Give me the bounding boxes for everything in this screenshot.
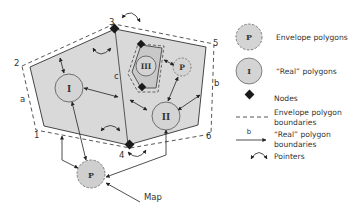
vertex-label-1: 1 bbox=[34, 130, 39, 140]
envelope-polygon-inner-label: P bbox=[179, 63, 185, 72]
envelope-polygon-map-label: P bbox=[88, 170, 94, 180]
legend-real-boundary-symbol: b bbox=[247, 128, 252, 136]
legend-real-boundary-label-line2: boundaries bbox=[274, 140, 316, 149]
vertex-label-6: 6 bbox=[206, 131, 211, 141]
legend-envelope-polygon-symbol: P bbox=[246, 32, 252, 42]
legend-real-boundary-label-line1: “Real” polygon bbox=[274, 130, 331, 139]
legend-pointer-icon bbox=[251, 153, 267, 160]
polygon-topology-diagram: I II III P P 1 2 3 4 5 6 a b c Map bbox=[0, 0, 355, 210]
legend-node-icon bbox=[245, 90, 255, 100]
legend: P Envelope polygons I “Real” polygons No… bbox=[236, 24, 348, 161]
legend-real-polygon-label: “Real” polygons bbox=[276, 67, 337, 76]
real-polygon-i-label: I bbox=[67, 84, 71, 94]
legend-real-polygon-symbol: I bbox=[247, 66, 251, 76]
vertex-label-2: 2 bbox=[14, 58, 19, 68]
legend-envelope-boundary-label-line1: Envelope polygon bbox=[274, 108, 342, 117]
edge-label-b: b bbox=[214, 78, 219, 88]
legend-envelope-boundary-label-line2: boundaries bbox=[274, 118, 316, 127]
edge-label-a: a bbox=[20, 94, 25, 104]
real-polygon-iii-label: III bbox=[141, 62, 152, 71]
legend-pointer-label: Pointers bbox=[274, 152, 305, 161]
vertex-label-4: 4 bbox=[119, 150, 124, 160]
edge-label-c: c bbox=[114, 71, 119, 81]
map-label: Map bbox=[144, 192, 162, 202]
vertex-label-5: 5 bbox=[213, 38, 218, 48]
legend-node-label: Nodes bbox=[274, 94, 298, 103]
vertex-label-3: 3 bbox=[109, 17, 114, 27]
legend-envelope-polygon-label: Envelope polygons bbox=[276, 33, 348, 42]
real-polygon-ii-label: II bbox=[162, 112, 170, 122]
